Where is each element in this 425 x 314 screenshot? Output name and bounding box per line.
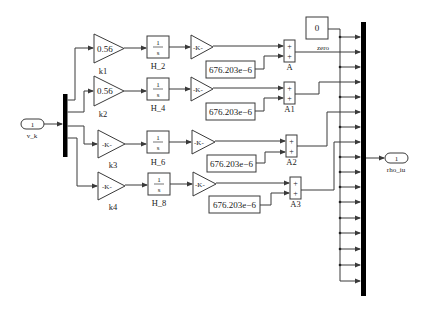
sum-a3-sign-1: +: [293, 179, 298, 188]
constant-4-value: 676.203e−6: [213, 200, 256, 210]
constant-zero[interactable]: 0: [306, 17, 328, 39]
sum-a[interactable]: + + A: [284, 40, 295, 72]
integrator-h2-num: 1: [156, 39, 160, 47]
integrator-h6-den: s: [157, 144, 160, 152]
integrator-h6[interactable]: 1 s H_6: [147, 131, 169, 167]
integrator-h6-num: 1: [156, 134, 160, 142]
sum-a-sign-2: +: [287, 52, 292, 61]
gain-k1[interactable]: 0.56 k1: [94, 34, 124, 76]
post-gain-2[interactable]: -K-: [191, 77, 213, 101]
integrator-h2-label: H_2: [151, 61, 166, 71]
gain-k4[interactable]: -K- k4: [98, 172, 125, 212]
zero-bus-taps: [339, 36, 360, 267]
integrator-h8-num: 1: [157, 176, 161, 184]
sum-a3-sign-2: +: [293, 189, 298, 198]
constant-4[interactable]: 676.203e−6: [209, 196, 260, 213]
gain-k3-value: -K-: [102, 141, 112, 149]
sum-a-label: A: [286, 62, 293, 72]
zero-signal-label: zero: [317, 44, 330, 52]
sum-a1-label: A1: [284, 104, 294, 114]
gain-k2-value: 0.56: [97, 86, 113, 96]
post-gain-3-value: -K-: [194, 139, 204, 147]
integrator-h4-label: H_4: [151, 103, 166, 113]
sum-a2[interactable]: + + A2: [286, 135, 297, 167]
gain-k4-value: -K-: [102, 183, 112, 191]
post-gain-1-value: -K-: [193, 44, 203, 52]
post-gain-1[interactable]: -K-: [191, 35, 213, 59]
constant-zero-value: 0: [315, 23, 320, 33]
integrator-h2[interactable]: 1 s H_2: [147, 36, 169, 71]
integrator-h4-den: s: [157, 91, 160, 99]
gain-k2[interactable]: 0.56 k2: [94, 76, 124, 119]
gain-k2-label: k2: [99, 109, 108, 119]
inport-number: 1: [31, 121, 35, 129]
constant-1-value: 676.203e−6: [209, 65, 252, 75]
sum-a1-sign-1: +: [287, 84, 292, 93]
sum-a3-label: A3: [290, 199, 300, 209]
integrator-h8-den: s: [158, 186, 161, 194]
integrator-h2-den: s: [157, 49, 160, 57]
gain-k3[interactable]: -K- k3: [98, 130, 125, 170]
outport-number: 1: [395, 155, 399, 163]
outport-label: rho_iu: [387, 166, 406, 174]
post-gain-4-value: -K-: [195, 181, 205, 189]
gain-k3-label: k3: [109, 160, 118, 170]
integrator-h6-label: H_6: [151, 157, 166, 167]
mux-bar[interactable]: [361, 22, 366, 296]
sum-a-sign-1: +: [287, 42, 292, 51]
constant-2[interactable]: 676.203e−6: [206, 103, 255, 120]
demux-bar[interactable]: [63, 94, 68, 157]
sum-a1-sign-2: +: [287, 94, 292, 103]
integrator-h4[interactable]: 1 s H_4: [147, 78, 169, 113]
integrator-h8[interactable]: 1 s H_8: [148, 173, 170, 208]
sum-a3[interactable]: + + A3: [290, 177, 301, 209]
gain-k1-label: k1: [99, 66, 108, 76]
post-gain-2-value: -K-: [193, 86, 203, 94]
sum-a1[interactable]: + + A1: [284, 82, 295, 114]
integrator-h8-label: H_8: [152, 198, 167, 208]
post-gain-3[interactable]: -K-: [192, 130, 215, 154]
constant-2-value: 676.203e−6: [209, 107, 252, 117]
constant-3[interactable]: 676.203e−6: [207, 155, 256, 172]
block-diagram-canvas: 1 v_k 0.56 k1 1 s H_2 -K- 676.203e−6 + +…: [0, 0, 425, 314]
sum-a2-sign-1: +: [289, 137, 294, 146]
integrator-h4-num: 1: [156, 81, 160, 89]
gain-k1-value: 0.56: [97, 44, 113, 54]
constant-1[interactable]: 676.203e−6: [206, 61, 255, 78]
inport-label: v_k: [27, 132, 38, 140]
inport-v-k[interactable]: 1 v_k: [21, 119, 44, 140]
sum-a2-label: A2: [286, 157, 296, 167]
gain-k4-label: k4: [109, 202, 118, 212]
sum-a2-sign-2: +: [289, 147, 294, 156]
outport-rho-iu[interactable]: 1 rho_iu: [385, 153, 408, 174]
post-gain-4[interactable]: -K-: [193, 172, 216, 196]
constant-3-value: 676.203e−6: [210, 159, 253, 169]
